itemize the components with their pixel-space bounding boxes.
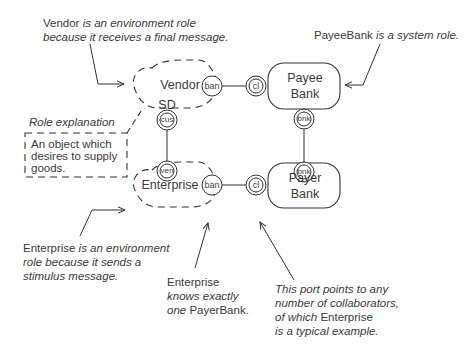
payeebank-annotation: PayeeBank is a system role. <box>314 28 459 42</box>
role-explanation-body: An object which desires to supply goods. <box>31 138 117 174</box>
port-points-line4: is a typical example. <box>275 324 399 338</box>
role-explanation-title: Role explanation <box>29 115 115 129</box>
payee-bank-line1: Payee <box>280 70 330 86</box>
enterprise-role-label: Enterprise <box>135 177 205 193</box>
arrow-payeebank-annotation <box>345 44 380 85</box>
enterprise-knows-annotation: Enterprise knows exactly one PayerBank. <box>167 275 249 317</box>
arrow-enterprise-annotation <box>80 210 125 236</box>
port-label-payee-bnk: bnk <box>294 114 314 124</box>
role-explanation-leader <box>127 108 143 133</box>
enterprise-knows-line1: Enterprise <box>167 275 249 289</box>
vendor-role-label: Vendor <box>150 77 210 93</box>
payeebank-annotation-text: is a system role. <box>373 29 459 41</box>
arrow-vendor-annotation <box>90 44 124 84</box>
vendor-annotation-name: Vendor <box>43 17 79 29</box>
port-points-annotation: This port points to any number of collab… <box>275 282 399 338</box>
port-points-line3-name: Enterprise <box>317 311 373 323</box>
payee-bank-line2: Bank <box>280 86 330 102</box>
port-label-enterprise-ven: ven <box>157 166 177 176</box>
port-points-line2: number of collaborators, <box>275 296 399 310</box>
port-label-vendor-ban: ban <box>202 81 222 91</box>
vendor-stereotype-label: SD <box>152 97 182 113</box>
port-label-vendor-cus: cus <box>157 115 177 125</box>
port-points-line1: This port points to any <box>275 282 399 296</box>
port-label-payer-bnk: bnk <box>294 167 314 177</box>
payee-bank-role-label: Payee Bank <box>280 70 330 102</box>
port-label-payer-cl: cl <box>246 180 266 190</box>
role-explanation-line: desires to supply <box>31 150 117 162</box>
enterprise-env-annotation: Enterprise is an environment role becaus… <box>23 241 169 283</box>
vendor-annotation-text: is an environment role <box>79 17 195 29</box>
enterprise-env-line3: stimulus message. <box>23 269 169 283</box>
payeebank-annotation-name: PayeeBank <box>314 29 373 41</box>
enterprise-knows-line2: knows exactly <box>167 289 249 303</box>
port-points-line3-it: of which <box>275 311 317 323</box>
port-label-payee-cl: cl <box>246 81 266 91</box>
role-explanation-line: goods. <box>31 162 117 174</box>
payer-bank-line2: Bank <box>280 186 330 202</box>
enterprise-env-text: is an environment <box>75 242 169 254</box>
arrow-port-points <box>260 222 294 280</box>
enterprise-env-name: Enterprise <box>23 242 75 254</box>
enterprise-knows-one: one <box>167 304 186 316</box>
arrow-enterprise-knows <box>195 223 208 268</box>
enterprise-knows-payerbank: PayerBank. <box>186 304 249 316</box>
port-label-enterprise-ban: ban <box>202 180 222 190</box>
enterprise-env-line2: role because it sends a <box>23 255 169 269</box>
vendor-annotation: Vendor is an environment role because it… <box>43 16 228 44</box>
vendor-annotation-line2: because it receives a final message. <box>43 30 228 44</box>
role-explanation-line: An object which <box>31 138 117 150</box>
